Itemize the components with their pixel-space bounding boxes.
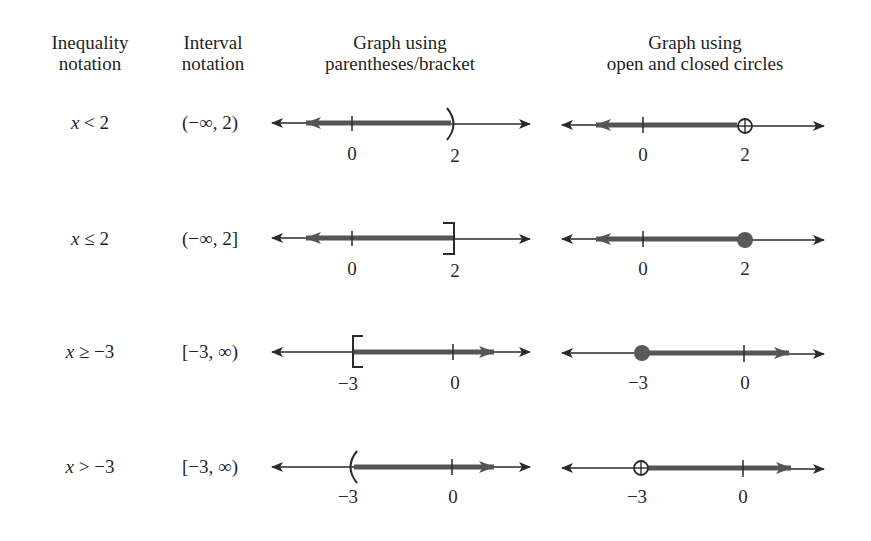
open-circle-endpoint	[738, 119, 752, 133]
graph-circles-row-4: −3 0	[562, 460, 824, 507]
tick-label: −3	[338, 486, 358, 507]
graph-brackets-row-1: 0 2	[272, 108, 530, 166]
tick-label: 0	[638, 258, 648, 279]
closed-circle-endpoint	[737, 232, 753, 248]
tick-label: −3	[627, 486, 647, 507]
tick-label: 0	[450, 372, 460, 393]
tick-label: 0	[347, 143, 357, 164]
tick-label: 2	[740, 258, 750, 279]
graph-brackets-row-4: −3 0	[272, 451, 530, 507]
number-line-graphs: 0 2 0 2 0 2 0 2	[0, 0, 871, 541]
tick-label: 0	[740, 372, 750, 393]
graph-circles-row-2: 0 2	[562, 231, 824, 279]
tick-label: −3	[628, 372, 648, 393]
closed-circle-endpoint	[634, 345, 650, 361]
tick-label: 2	[740, 144, 750, 165]
tick-label: 0	[638, 144, 648, 165]
graph-circles-row-3: −3 0	[562, 345, 824, 393]
tick-label: 0	[738, 486, 748, 507]
tick-label: −3	[338, 373, 358, 394]
graph-circles-row-1: 0 2	[562, 117, 824, 165]
tick-label: 0	[347, 258, 357, 279]
tick-label: 2	[450, 260, 460, 281]
tick-label: 0	[448, 486, 458, 507]
tick-label: 2	[450, 145, 460, 166]
graph-brackets-row-2: 0 2	[272, 223, 530, 281]
open-circle-endpoint	[634, 461, 648, 475]
graph-brackets-row-3: −3 0	[272, 336, 530, 394]
